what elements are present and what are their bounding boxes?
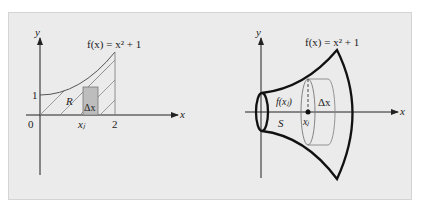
solid-label: S xyxy=(278,117,284,129)
tick-origin: 0 xyxy=(28,118,34,130)
sample-point-label: xⱼ xyxy=(302,116,310,127)
disk-label: Δx xyxy=(318,96,331,108)
strip-label: Δx xyxy=(84,102,95,113)
y-axis-label: y xyxy=(255,26,261,38)
tick-y1: 1 xyxy=(32,89,38,101)
solid-outline xyxy=(262,50,353,179)
y-axis-label: y xyxy=(34,26,40,38)
tick-x2: 2 xyxy=(112,118,118,130)
sample-point xyxy=(306,110,311,115)
curve xyxy=(40,52,115,95)
left-graph: y x 0 1 2 R xⱼ Δx f(x) = x² + 1 xyxy=(20,26,185,175)
x-axis-label: x xyxy=(399,105,405,117)
function-label: f(x) = x² + 1 xyxy=(305,36,359,49)
function-label: f(x) = x² + 1 xyxy=(87,38,141,51)
x-axis-label: x xyxy=(179,108,185,120)
right-graph: y x S f(xⱼ) xⱼ Δx f(x) = x² + 1 xyxy=(245,26,405,179)
region-label: R xyxy=(65,95,73,107)
figure-svg: y x 0 1 2 R xⱼ Δx f(x) = x² + 1 y x S f(… xyxy=(0,0,424,207)
radius-label: f(xⱼ) xyxy=(276,96,293,108)
sample-point-label: xⱼ xyxy=(77,118,86,130)
